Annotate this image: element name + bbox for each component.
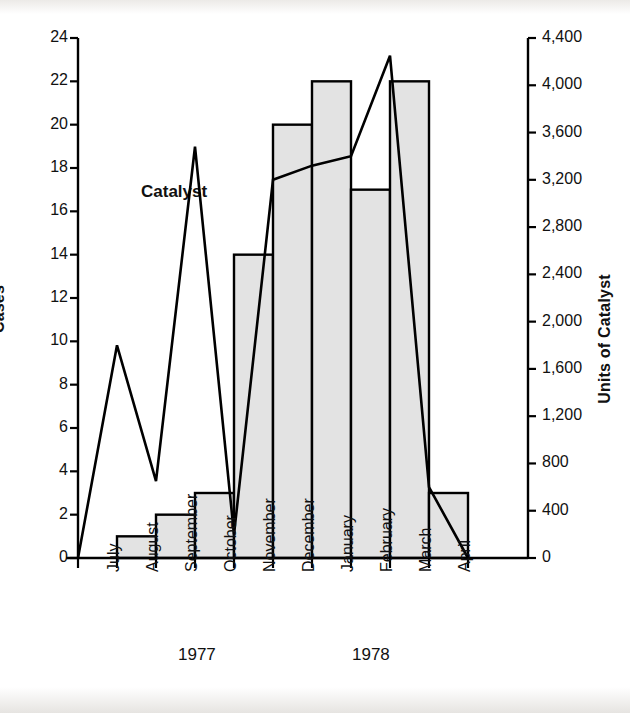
- x-tick-september: September: [183, 494, 201, 572]
- left-tick-0: 0: [20, 548, 68, 566]
- x-tick-april: April: [456, 540, 474, 572]
- right-tick-2800: 2,800: [542, 217, 582, 235]
- figure-page: Cases Units of Catalyst Catalyst 0246810…: [0, 0, 630, 713]
- left-tick-8: 8: [20, 375, 68, 393]
- left-tick-14: 14: [20, 245, 68, 263]
- left-tick-10: 10: [20, 331, 68, 349]
- left-tick-18: 18: [20, 158, 68, 176]
- bar-march: [390, 81, 429, 558]
- right-tick-2400: 2,400: [542, 264, 582, 282]
- left-tick-12: 12: [20, 288, 68, 306]
- bar-february: [351, 190, 390, 558]
- left-tick-4: 4: [20, 461, 68, 479]
- left-tick-6: 6: [20, 418, 68, 436]
- x-tick-august: August: [144, 522, 162, 572]
- left-tick-2: 2: [20, 505, 68, 523]
- x-tick-december: December: [300, 498, 318, 572]
- left-tick-24: 24: [20, 28, 68, 46]
- x-tick-february: February: [378, 508, 396, 572]
- year-group-1977: 1977: [178, 645, 216, 665]
- left-tick-16: 16: [20, 201, 68, 219]
- right-tick-4000: 4,000: [542, 75, 582, 93]
- left-tick-20: 20: [20, 115, 68, 133]
- x-tick-january: January: [339, 515, 357, 572]
- bar-series-group: [117, 81, 468, 558]
- right-tick-2000: 2,000: [542, 312, 582, 330]
- x-tick-october: October: [222, 515, 240, 572]
- chart-canvas: [0, 0, 630, 713]
- bar-january: [312, 81, 351, 558]
- right-tick-800: 800: [542, 453, 569, 471]
- right-tick-1600: 1,600: [542, 359, 582, 377]
- right-tick-3200: 3,200: [542, 170, 582, 188]
- left-tick-22: 22: [20, 71, 68, 89]
- right-tick-4400: 4,400: [542, 28, 582, 46]
- x-tick-july: July: [105, 544, 123, 572]
- right-tick-0: 0: [542, 548, 551, 566]
- x-tick-march: March: [417, 528, 435, 572]
- right-tick-1200: 1,200: [542, 406, 582, 424]
- right-tick-3600: 3,600: [542, 123, 582, 141]
- x-tick-november: November: [261, 498, 279, 572]
- year-group-1978: 1978: [352, 645, 390, 665]
- right-tick-400: 400: [542, 501, 569, 519]
- bar-december: [273, 125, 312, 558]
